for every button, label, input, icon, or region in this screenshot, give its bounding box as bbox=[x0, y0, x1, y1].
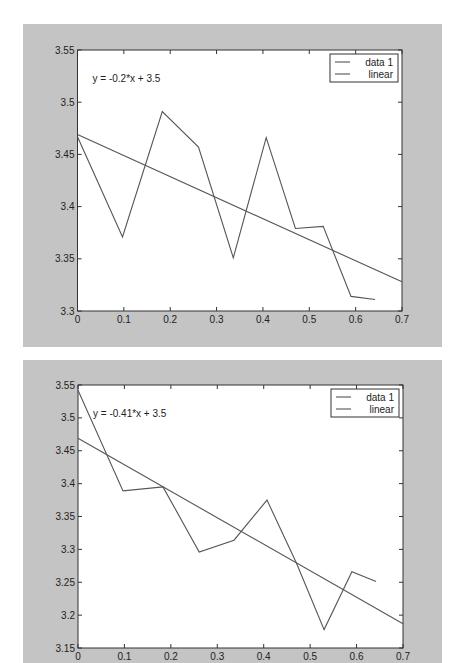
fit-equation-annotation: y = -0.2*x + 3.5 bbox=[93, 73, 161, 84]
x-tick-label: 0.4 bbox=[257, 651, 271, 662]
x-tick-label: 0.7 bbox=[395, 314, 409, 325]
x-tick-label: 0.6 bbox=[350, 651, 364, 662]
x-tick-label: 0.3 bbox=[210, 314, 224, 325]
plot-area bbox=[78, 50, 403, 311]
legend: data 1linear bbox=[331, 389, 399, 417]
y-tick-label: 3.25 bbox=[56, 577, 76, 588]
y-tick-label: 3.45 bbox=[55, 149, 75, 160]
fit-equation-annotation: y = -0.41*x + 3.5 bbox=[93, 408, 167, 419]
y-tick-label: 3.5 bbox=[61, 412, 75, 423]
y-tick-label: 3.55 bbox=[56, 380, 76, 391]
x-tick-label: 0.1 bbox=[117, 314, 131, 325]
legend-label: data 1 bbox=[365, 57, 393, 68]
legend-label: data 1 bbox=[366, 392, 394, 403]
legend-label: linear bbox=[369, 69, 394, 80]
y-tick-label: 3.3 bbox=[61, 306, 75, 317]
x-tick-label: 0.1 bbox=[117, 651, 131, 662]
y-tick-label: 3.2 bbox=[61, 610, 75, 621]
y-tick-label: 3.4 bbox=[61, 478, 75, 489]
y-tick-label: 3.5 bbox=[61, 97, 75, 108]
legend-label: linear bbox=[370, 404, 395, 415]
y-tick-label: 3.35 bbox=[56, 511, 76, 522]
legend: data 1linear bbox=[330, 54, 398, 82]
x-tick-label: 0.3 bbox=[210, 651, 224, 662]
figure-2: 00.10.20.30.40.50.60.73.153.23.253.33.35… bbox=[23, 360, 442, 663]
y-tick-label: 3.3 bbox=[61, 544, 75, 555]
y-tick-label: 3.35 bbox=[55, 253, 75, 264]
x-tick-label: 0.4 bbox=[256, 314, 270, 325]
chart-2: 00.10.20.30.40.50.60.73.153.23.253.33.35… bbox=[23, 360, 442, 663]
figure-1: 00.10.20.30.40.50.60.73.33.353.43.453.53… bbox=[23, 24, 442, 347]
y-tick-label: 3.45 bbox=[56, 445, 76, 456]
y-tick-label: 3.4 bbox=[61, 201, 75, 212]
y-tick-label: 3.15 bbox=[56, 643, 76, 654]
plot-area bbox=[78, 385, 403, 648]
x-tick-label: 0 bbox=[75, 314, 81, 325]
x-tick-label: 0.2 bbox=[164, 651, 178, 662]
x-tick-label: 0.2 bbox=[163, 314, 177, 325]
x-tick-label: 0.7 bbox=[396, 651, 410, 662]
x-tick-label: 0.6 bbox=[349, 314, 363, 325]
chart-1: 00.10.20.30.40.50.60.73.33.353.43.453.53… bbox=[23, 24, 442, 347]
x-tick-label: 0.5 bbox=[302, 314, 316, 325]
x-tick-label: 0 bbox=[75, 651, 81, 662]
y-tick-label: 3.55 bbox=[55, 45, 75, 56]
x-tick-label: 0.5 bbox=[303, 651, 317, 662]
